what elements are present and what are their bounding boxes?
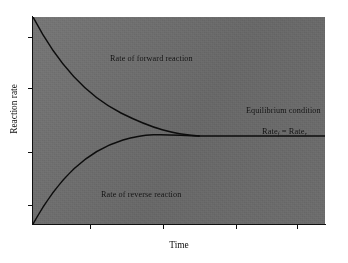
x-axis-title: Time (33, 240, 325, 250)
x-axis-tick (236, 224, 237, 229)
rate-forward-text: Rate (262, 127, 278, 136)
y-axis-tick (28, 205, 33, 206)
rate-reverse-subscript: r (305, 131, 307, 137)
y-axis-tick (28, 88, 33, 89)
reverse-reaction-curve (33, 135, 199, 224)
rate-forward-subscript: f (278, 131, 280, 137)
y-axis-title: Reaction rate (9, 69, 19, 149)
forward-reaction-label: Rate of forward reaction (110, 54, 193, 63)
y-axis-tick (28, 37, 33, 38)
forward-reaction-curve (33, 17, 199, 136)
x-axis-tick (163, 224, 164, 229)
rate-equality-label: Ratef = Rater (262, 127, 307, 136)
y-axis-tick (28, 152, 33, 153)
x-axis-tick (297, 224, 298, 229)
equilibrium-condition-label: Equilibrium condition (246, 106, 321, 115)
y-axis-line (32, 16, 33, 225)
reverse-reaction-label: Rate of reverse reaction (101, 190, 181, 199)
x-axis-tick (90, 224, 91, 229)
rate-equality-operator: = Rate (280, 127, 305, 136)
x-axis-line (32, 224, 326, 225)
equilibrium-rate-figure: Rate of forward reaction Rate of reverse… (0, 0, 348, 263)
plot-area: Rate of forward reaction Rate of reverse… (33, 17, 325, 224)
